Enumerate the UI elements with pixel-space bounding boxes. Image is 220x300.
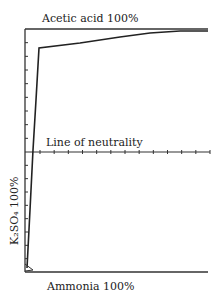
neutrality-label: Line of neutrality [46, 136, 143, 149]
left-axis-label: K₂SO₄ 100% [8, 176, 21, 245]
axis-ticks [25, 43, 210, 259]
titration-curve [27, 31, 208, 268]
bottom-label: Ammonia 100% [46, 280, 135, 293]
origin-marker [25, 264, 33, 271]
titration-chart: Acetic acid 100% Line of neutrality Ammo… [0, 0, 220, 300]
top-label: Acetic acid 100% [41, 12, 138, 25]
